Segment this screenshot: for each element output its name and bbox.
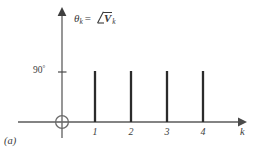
y-axis-tick-label-90: 90°: [33, 65, 45, 76]
degree-symbol-icon: °: [43, 64, 46, 72]
x-axis-tick-label-3: 3: [160, 126, 174, 137]
figure-caption: (a): [4, 135, 16, 146]
x-axis-tick-label-1: 1: [88, 126, 102, 137]
y-axis-label: θk=Vk: [74, 9, 116, 25]
x-axis-tick-label-4: 4: [196, 126, 210, 137]
x-axis-tick-label-2: 2: [124, 126, 138, 137]
angle-symbol-icon: [97, 11, 104, 24]
phasor-v-symbol: V: [103, 12, 112, 24]
x-axis-label: k: [240, 126, 245, 137]
phase-spectrum-figure: θk=Vk 90° 1 2 3 4 k (a): [0, 0, 258, 153]
y-axis-arrow-icon: [58, 7, 67, 16]
y-axis-tick-value: 90: [33, 65, 43, 75]
angle-notation-group: Vk: [93, 9, 116, 25]
y-axis-label-equals: =: [83, 12, 93, 24]
phasor-v-subscript: k: [112, 17, 115, 26]
